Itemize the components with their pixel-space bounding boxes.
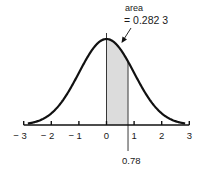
x-tick-label: 0: [104, 130, 109, 141]
x-tick-label: 1: [131, 130, 136, 141]
area-value-label: = 0.282 3: [124, 14, 168, 26]
shaded-area-region: [107, 39, 129, 125]
x-tick-label: − 2: [41, 130, 54, 141]
x-tick-label: 3: [187, 130, 192, 141]
normal-distribution-chart: − 3− 2− 10123 area = 0.282 3 0.78: [0, 0, 200, 174]
x-tick-label: − 3: [13, 130, 26, 141]
arrow-icon: [122, 28, 132, 43]
area-label: area: [125, 3, 143, 13]
x-tick-label: − 1: [68, 130, 81, 141]
x-tick-label: 2: [159, 130, 164, 141]
marker-value-label: 0.78: [122, 155, 141, 166]
x-axis-tick-labels: − 3− 2− 10123: [13, 130, 192, 141]
